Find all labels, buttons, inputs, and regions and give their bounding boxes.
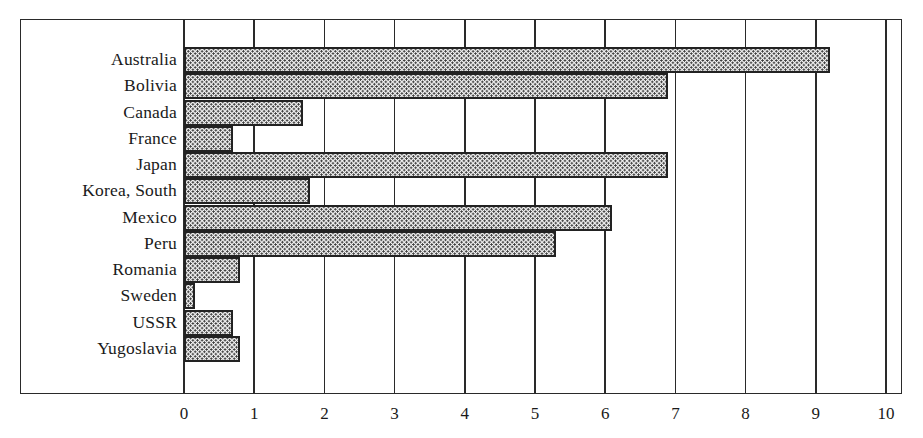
bar-bolivia [184,73,668,99]
category-label: USSR [132,309,177,335]
category-label: France [128,125,177,151]
bar-chart-plot-area: 012345678910AustraliaBoliviaCanadaFrance… [0,0,923,438]
x-tick-label: 9 [801,404,831,424]
bar-canada [184,100,303,126]
category-label: Romania [112,256,177,282]
x-tick-label: 2 [309,404,339,424]
gridline-7 [675,20,677,394]
x-tick-label: 0 [169,404,199,424]
x-tick-label: 10 [871,404,901,424]
category-label: Australia [111,46,177,72]
category-label: Peru [144,230,177,256]
gridline-8 [745,20,747,394]
category-label: Japan [136,151,177,177]
x-tick-label: 8 [731,404,761,424]
bar-france [184,126,233,152]
bar-australia [184,47,830,73]
category-label: Yugoslavia [97,335,177,361]
bar-sweden [184,283,195,309]
x-tick-label: 7 [660,404,690,424]
x-tick-label: 5 [520,404,550,424]
x-tick-label: 3 [380,404,410,424]
category-label: Mexico [122,204,177,230]
bar-peru [184,231,556,257]
category-label: Korea, South [82,177,177,203]
category-label: Bolivia [124,72,177,98]
category-label: Canada [123,99,177,125]
x-tick-label: 6 [590,404,620,424]
bar-korea-south [184,178,310,204]
gridline-9 [815,20,817,394]
bar-ussr [184,310,233,336]
bar-yugoslavia [184,336,240,362]
bar-mexico [184,205,612,231]
x-tick-label: 1 [239,404,269,424]
gridline-10 [885,20,887,394]
category-label: Sweden [120,282,177,308]
bar-romania [184,257,240,283]
bar-japan [184,152,668,178]
x-tick-label: 4 [450,404,480,424]
